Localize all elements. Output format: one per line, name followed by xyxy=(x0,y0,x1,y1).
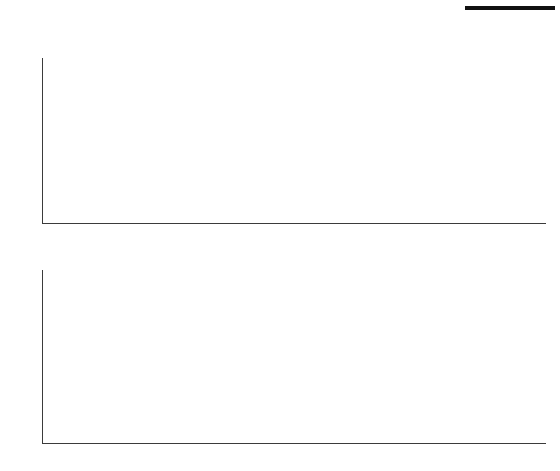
x-axis-ticks-top xyxy=(42,40,546,56)
header-rule xyxy=(465,6,555,10)
chart-panel-high-tenure xyxy=(0,40,560,240)
chart-panel-low-tenure xyxy=(0,258,560,466)
x-axis-line-top xyxy=(42,223,546,224)
x-axis-line-bottom xyxy=(42,443,546,444)
plot-area-high-tenure xyxy=(42,58,522,224)
y-axis-line-top xyxy=(42,58,43,224)
plot-area-low-tenure xyxy=(42,270,522,444)
x-axis-ticks-bottom xyxy=(42,258,546,274)
y-axis-line-bottom xyxy=(42,270,43,444)
